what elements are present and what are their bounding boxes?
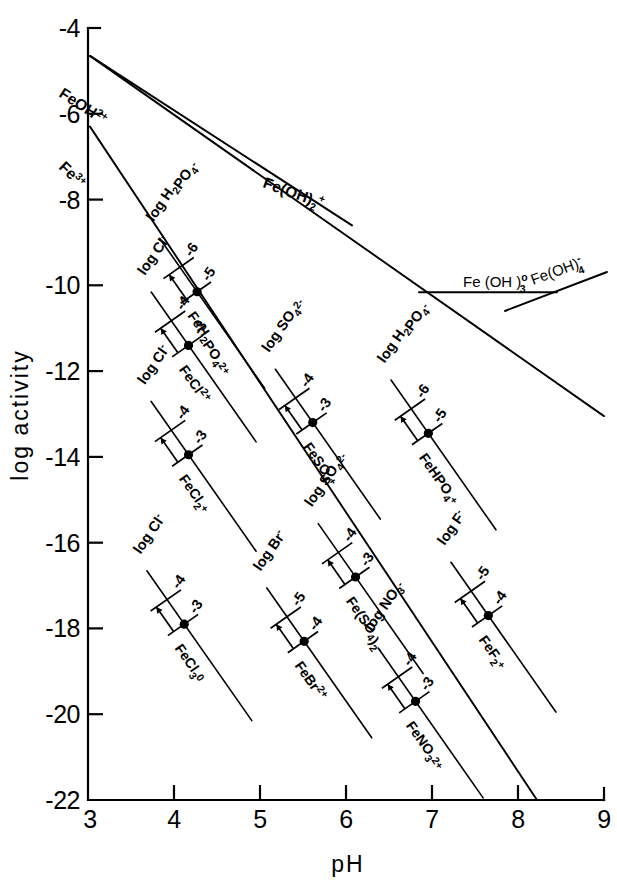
- x-tick-label: 6: [339, 805, 352, 833]
- x-tick-labels: 3 4 5 6 7 8 9: [83, 805, 610, 833]
- ligand-scale-high: -4: [305, 614, 326, 634]
- x-tick-label: 8: [511, 805, 524, 833]
- label-feoh2-plus: Fe(OH)2+: [260, 172, 328, 215]
- figure-canvas: -4 -6 -8 -10 -12 -14 -16 -18 -20 -22 3 4…: [0, 0, 617, 882]
- ligand-scale-label: log Cl-: [132, 340, 172, 387]
- y-tick-label: -4: [59, 14, 81, 42]
- complex-formula: FeCl2+: [174, 471, 214, 517]
- complex-formula: FeCl30: [169, 641, 209, 686]
- ligand-scale-low: -6: [412, 381, 433, 401]
- y-tick-label: -22: [45, 786, 80, 814]
- scale-tick-low: [271, 607, 301, 628]
- scale-tick-low: [322, 543, 352, 564]
- ligand-scale-label: log Cl-: [132, 231, 172, 278]
- complex-cluster: log Cl--4-3FeCl30: [128, 510, 252, 721]
- complex-cluster: log H2PO4--6-5FeHPO4+: [374, 297, 496, 530]
- ligand-scale-low: -5: [288, 589, 309, 609]
- scale-tick-low: [395, 399, 425, 420]
- cluster-trend-line: [391, 380, 496, 530]
- ligand-scale-low: -6: [181, 239, 202, 259]
- complex-formula: FeBr2+: [292, 657, 332, 703]
- y-tick-label: -14: [45, 443, 80, 471]
- x-axis-title: pH: [331, 851, 364, 877]
- y-tick-labels: -4 -6 -8 -10 -12 -14 -16 -18 -20 -22: [45, 14, 80, 814]
- species-label-group: FeOH2+ Fe3+ Fe(OH)2+ Fe (OH )o3 Fe(OH)-4: [56, 83, 587, 295]
- ligand-scale-high: -3: [417, 674, 438, 694]
- ligand-scale-label: log SO42-: [258, 295, 309, 357]
- ligand-scale-high: -5: [429, 406, 450, 426]
- x-tick-label: 4: [167, 805, 181, 833]
- scale-tick-low: [155, 420, 185, 441]
- ligand-scale-high: -4: [489, 588, 510, 608]
- ligand-scale-high: -3: [357, 549, 378, 569]
- x-tick-label: 7: [425, 805, 438, 833]
- x-tick-label: 9: [597, 805, 610, 833]
- speciation-diagram: -4 -6 -8 -10 -12 -14 -16 -18 -20 -22 3 4…: [0, 0, 617, 882]
- species-dot: [180, 620, 189, 629]
- complex-cluster: log F--5-4FeF2+: [432, 506, 556, 712]
- complex-cluster: log Cl--4-3FeCl2+: [132, 231, 256, 442]
- ligand-scale-low: -4: [168, 572, 189, 592]
- cluster-trend-line: [275, 369, 380, 519]
- complex-formula: FeNO32+: [401, 718, 448, 774]
- label-feoh4-minus: Fe(OH)-4: [528, 251, 587, 292]
- x-tick-label: 5: [253, 805, 266, 833]
- y-ticks: [88, 114, 103, 714]
- scale-tick-low: [151, 590, 181, 611]
- y-tick-label: -10: [45, 271, 80, 299]
- y-tick-label: -12: [45, 357, 80, 385]
- ligand-scale-label: log F-: [432, 506, 469, 548]
- species-dot: [184, 450, 193, 459]
- cluster-trend-line: [451, 562, 556, 712]
- species-dot: [192, 287, 201, 296]
- ligand-scale-high: -3: [190, 427, 211, 447]
- scale-tick-low: [155, 311, 185, 332]
- cluster-trend-line: [151, 401, 256, 551]
- ligand-scale-high: -3: [185, 596, 206, 616]
- scale-tick-low: [279, 388, 309, 409]
- species-dot: [484, 611, 493, 620]
- complex-clusters: log H2PO4--6-5FeH2PO42+log Cl--4-3FeCl2+…: [128, 155, 556, 798]
- y-tick-label: -18: [45, 614, 80, 642]
- axis-lines: [88, 28, 604, 800]
- complex-cluster: log Br--5-4FeBr2+: [248, 526, 372, 738]
- x-ticks: [174, 785, 518, 800]
- scale-tick-low: [455, 581, 485, 602]
- complex-cluster: log NO3--4-3FeNO32+: [361, 577, 483, 797]
- ligand-scale-low: -4: [297, 370, 318, 390]
- ligand-scale-label: log NO3-: [361, 577, 409, 635]
- ligand-scale-high: -3: [314, 395, 335, 415]
- complex-formula: FeCl2+: [176, 361, 215, 406]
- species-dot: [184, 341, 193, 350]
- ligand-scale-low: -4: [172, 402, 193, 422]
- complex-cluster: log SO42--4-3Fe(SO4)2-: [301, 449, 423, 674]
- species-dot: [411, 697, 420, 706]
- species-dot: [308, 418, 317, 427]
- complex-formula: FeHPO4+: [413, 450, 462, 509]
- x-tick-label: 3: [83, 805, 96, 833]
- y-tick-label: -20: [45, 700, 80, 728]
- y-axis-title: log activity: [7, 349, 33, 480]
- ligand-scale-label: log Cl-: [128, 510, 168, 557]
- y-tick-label: -16: [45, 529, 80, 557]
- species-dot: [351, 572, 360, 581]
- cluster-trend-line: [151, 292, 256, 442]
- ligand-scale-label: log H2PO4-: [143, 155, 204, 228]
- ligand-scale-label: log H2PO4-: [374, 297, 435, 370]
- cluster-trend-line: [378, 648, 483, 798]
- cluster-trend-line: [147, 571, 252, 721]
- species-dot: [424, 429, 433, 438]
- hydrolysis-curves: [90, 56, 607, 800]
- ligand-scale-low: -5: [472, 563, 493, 583]
- species-dot: [300, 637, 309, 646]
- ligand-scale-high: -5: [198, 264, 219, 284]
- curve-feoh2-plus: [90, 56, 604, 416]
- scale-tick-low: [382, 667, 412, 688]
- y-tick-label: -8: [59, 186, 80, 214]
